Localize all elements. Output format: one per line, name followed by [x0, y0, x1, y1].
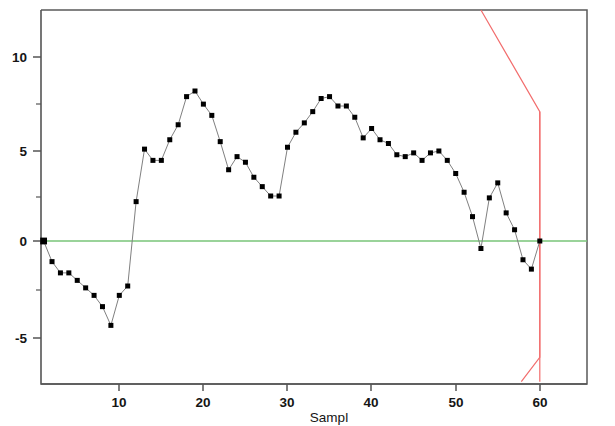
data-point: [420, 158, 425, 163]
x-tick-label-10: 10: [111, 395, 126, 410]
data-point: [108, 323, 113, 328]
data-point: [386, 141, 391, 146]
data-point: [436, 149, 441, 154]
data-point: [142, 147, 147, 152]
data-point: [319, 96, 324, 101]
data-point: [487, 195, 492, 200]
lower-limit-line: [521, 112, 540, 382]
data-point: [251, 175, 256, 180]
data-point: [226, 167, 231, 172]
data-point: [201, 102, 206, 107]
data-point: [310, 109, 315, 114]
data-point: [327, 94, 332, 99]
data-point: [235, 154, 240, 159]
x-axis-ticks: [119, 384, 540, 391]
x-tick-label-20: 20: [195, 395, 210, 410]
data-point: [344, 104, 349, 109]
x-tick-label-30: 30: [279, 395, 294, 410]
data-point: [260, 184, 265, 189]
data-point: [117, 293, 122, 298]
y-axis-ticks: [33, 57, 41, 338]
data-point: [462, 190, 467, 195]
series-markers: [40, 89, 542, 328]
data-point: [75, 278, 80, 283]
data-point: [529, 267, 534, 272]
data-point: [445, 158, 450, 163]
x-tick-label-50: 50: [448, 395, 463, 410]
data-point: [478, 246, 483, 251]
data-point: [125, 284, 130, 289]
data-point: [192, 89, 197, 94]
data-point: [159, 158, 164, 163]
data-point: [537, 239, 542, 244]
control-chart: 10 5 0 -5 10 20 30 40 50 60 Sampl: [0, 0, 615, 426]
data-point: [470, 214, 475, 219]
plot-frame: [41, 10, 587, 384]
data-series: [40, 89, 542, 328]
y-tick-label-0: 0: [19, 234, 27, 249]
chart-svg: 10 5 0 -5 10 20 30 40 50 60 Sampl: [0, 0, 615, 426]
data-point: [411, 150, 416, 155]
data-point: [150, 158, 155, 163]
data-point: [209, 113, 214, 118]
data-point: [512, 227, 517, 232]
series-line: [44, 91, 540, 325]
data-point: [361, 135, 366, 140]
data-point: [428, 150, 433, 155]
y-tick-label-neg5: -5: [15, 331, 27, 346]
x-tick-label-40: 40: [363, 395, 378, 410]
data-point: [268, 194, 273, 199]
data-point: [167, 137, 172, 142]
y-tick-label-10: 10: [12, 50, 27, 65]
data-point: [100, 304, 105, 309]
data-point: [394, 152, 399, 157]
y-tick-label-5: 5: [19, 144, 27, 159]
data-point: [335, 104, 340, 109]
data-point: [218, 139, 223, 144]
data-point: [134, 199, 139, 204]
data-point: [50, 259, 55, 264]
data-point: [92, 293, 97, 298]
data-point: [293, 130, 298, 135]
y-axis-tick-labels: 10 5 0 -5: [12, 50, 28, 346]
x-axis-title: Sampl: [310, 410, 348, 425]
data-point: [277, 194, 282, 199]
data-point: [58, 270, 63, 275]
data-point: [285, 145, 290, 150]
data-point: [184, 94, 189, 99]
data-point: [40, 238, 47, 245]
data-point: [176, 122, 181, 127]
data-point: [302, 120, 307, 125]
data-point: [83, 285, 88, 290]
data-point: [520, 257, 525, 262]
data-point: [495, 180, 500, 185]
data-point: [66, 270, 71, 275]
data-point: [378, 137, 383, 142]
data-point: [504, 210, 509, 215]
x-tick-label-60: 60: [532, 395, 547, 410]
x-axis-tick-labels: 10 20 30 40 50 60: [111, 395, 547, 410]
data-point: [453, 171, 458, 176]
data-point: [403, 154, 408, 159]
data-point: [243, 160, 248, 165]
data-point: [369, 126, 374, 131]
data-point: [352, 115, 357, 120]
